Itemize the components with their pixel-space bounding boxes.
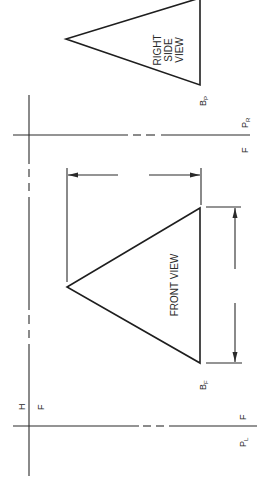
dimension-width	[67, 168, 201, 282]
svg-text:FRONT VIEW: FRONT VIEW	[169, 253, 180, 316]
svg-text:F: F	[203, 380, 209, 384]
svg-text:SIDE: SIDE	[163, 38, 174, 62]
svg-text:F: F	[36, 404, 46, 410]
front-view-triangle	[67, 208, 200, 363]
fold-label-top-f: F	[240, 147, 250, 153]
svg-text:H: H	[17, 404, 27, 411]
projection-drawing: RIGHT SIDE VIEW FRONT VIEW B P B F P R F…	[0, 0, 264, 490]
point-label-bf: B F	[198, 380, 209, 390]
svg-text:VIEW: VIEW	[174, 37, 185, 63]
fold-label-bottom-f: F	[238, 414, 248, 420]
fold-label-h: H	[17, 404, 27, 411]
fold-label-pl: P L	[238, 437, 249, 447]
svg-text:RIGHT: RIGHT	[152, 34, 163, 65]
svg-text:L: L	[243, 437, 249, 441]
svg-text:F: F	[240, 147, 250, 153]
point-label-bp: B P	[198, 96, 209, 106]
fold-label-vertical-f: F	[36, 404, 46, 410]
fold-label-pr: P R	[240, 117, 251, 128]
svg-text:F: F	[238, 414, 248, 420]
svg-text:R: R	[245, 117, 251, 122]
dimension-height	[206, 207, 242, 363]
front-view-label: FRONT VIEW	[169, 253, 180, 316]
svg-text:P: P	[203, 96, 209, 100]
right-side-view-label: RIGHT SIDE VIEW	[152, 34, 185, 65]
